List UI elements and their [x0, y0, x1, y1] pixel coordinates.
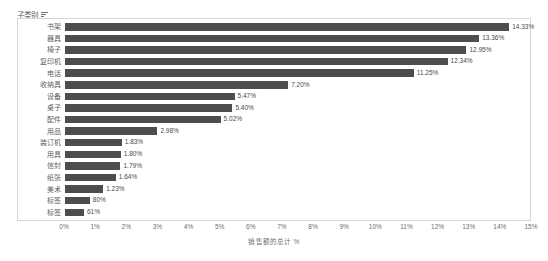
- bar-row: 桌子5.40%: [18, 102, 530, 114]
- bar-row-label[interactable]: 用具: [18, 151, 65, 158]
- x-axis: 0%1%2%3%4%5%6%7%8%9%10%11%12%13%14%15%: [17, 221, 531, 235]
- bar[interactable]: [65, 104, 232, 112]
- bar-row: 信封1.79%: [18, 160, 530, 172]
- bar-track: 5.02%: [65, 114, 530, 126]
- bar-row-label[interactable]: 信封: [18, 162, 65, 169]
- bar[interactable]: [65, 81, 288, 89]
- x-axis-tick: 13%: [462, 223, 475, 230]
- x-axis-tick: 2%: [122, 223, 131, 230]
- x-axis-tick: 10%: [369, 223, 382, 230]
- x-axis-tick: 7%: [277, 223, 286, 230]
- bar-row-label[interactable]: 电话: [18, 70, 65, 77]
- bar-value-label: 80%: [93, 197, 106, 204]
- bar[interactable]: [65, 116, 221, 124]
- bar-track: 1.80%: [65, 149, 530, 161]
- plot-area: 书架14.33%器具13.36%椅子12.95%复印机12.34%电话11.25…: [17, 18, 531, 221]
- bar[interactable]: [65, 197, 90, 205]
- bar-track: 5.40%: [65, 102, 530, 114]
- bar-row: 设备5.47%: [18, 91, 530, 103]
- bar-row: 装订机1.83%: [18, 137, 530, 149]
- bar[interactable]: [65, 151, 121, 159]
- bar-row: 电话11.25%: [18, 67, 530, 79]
- bar-value-label: 13.36%: [482, 35, 504, 42]
- bar[interactable]: [65, 69, 414, 77]
- bar-value-label: 11.25%: [417, 70, 439, 77]
- bar-row: 复印机12.34%: [18, 56, 530, 68]
- bar-value-label: 5.02%: [224, 116, 242, 123]
- bar-track: 14.33%: [65, 21, 530, 33]
- bar-row-label[interactable]: 收纳具: [18, 81, 65, 88]
- bar-row-label[interactable]: 纸张: [18, 174, 65, 181]
- bar[interactable]: [65, 58, 448, 66]
- bar[interactable]: [65, 23, 509, 31]
- bar-row-label[interactable]: 标签: [18, 197, 65, 204]
- bar[interactable]: [65, 209, 84, 217]
- bar-row: 书架14.33%: [18, 21, 530, 33]
- bar-row-label[interactable]: 装订机: [18, 139, 65, 146]
- bar-row: 标签61%: [18, 207, 530, 219]
- bar[interactable]: [65, 185, 103, 193]
- bar-track: 13.36%: [65, 33, 530, 45]
- bar-track: 61%: [65, 207, 530, 219]
- bar-row: 标签80%: [18, 195, 530, 207]
- x-axis-tick: 6%: [246, 223, 255, 230]
- bar-value-label: 14.33%: [512, 24, 534, 31]
- bar-track: 7.20%: [65, 79, 530, 91]
- bar-row-label[interactable]: 桌子: [18, 104, 65, 111]
- bar-row: 配件5.02%: [18, 114, 530, 126]
- bar[interactable]: [65, 46, 466, 54]
- bar-row: 用品2.98%: [18, 125, 530, 137]
- x-axis-tick: 3%: [153, 223, 162, 230]
- x-axis-tick: 0%: [59, 223, 68, 230]
- x-axis-tick: 15%: [524, 223, 537, 230]
- bar[interactable]: [65, 35, 479, 43]
- bar-row: 椅子12.95%: [18, 44, 530, 56]
- bar[interactable]: [65, 139, 122, 147]
- sort-descending-icon[interactable]: [41, 11, 48, 18]
- bar-track: 12.95%: [65, 44, 530, 56]
- bar[interactable]: [65, 127, 157, 135]
- bar-row-label[interactable]: 器具: [18, 35, 65, 42]
- bar-value-label: 12.34%: [451, 58, 473, 65]
- bar-rows: 书架14.33%器具13.36%椅子12.95%复印机12.34%电话11.25…: [18, 19, 530, 220]
- bar[interactable]: [65, 162, 120, 170]
- bar-row: 器具13.36%: [18, 33, 530, 45]
- x-axis-tick: 8%: [308, 223, 317, 230]
- bar-row-label[interactable]: 椅子: [18, 46, 65, 53]
- bar-value-label: 12.95%: [469, 47, 491, 54]
- x-axis-title: 销售额的总计 %: [17, 236, 531, 246]
- bar-value-label: 1.83%: [125, 139, 143, 146]
- x-axis-tick: 4%: [184, 223, 193, 230]
- bar-value-label: 2.98%: [160, 128, 178, 135]
- bar[interactable]: [65, 93, 235, 101]
- bar-track: 1.83%: [65, 137, 530, 149]
- x-axis-ticks: 0%1%2%3%4%5%6%7%8%9%10%11%12%13%14%15%: [64, 221, 531, 235]
- bar-row: 用具1.80%: [18, 149, 530, 161]
- bar-row: 纸张1.64%: [18, 172, 530, 184]
- x-axis-tick: 5%: [215, 223, 224, 230]
- x-axis-tick: 11%: [400, 223, 413, 230]
- bar-track: 1.64%: [65, 172, 530, 184]
- bar-track: 1.23%: [65, 183, 530, 195]
- bar-row-label[interactable]: 书架: [18, 23, 65, 30]
- bar-row: 收纳具7.20%: [18, 79, 530, 91]
- bar-value-label: 5.47%: [238, 93, 256, 100]
- x-axis-tick: 1%: [90, 223, 99, 230]
- bar-value-label: 7.20%: [291, 82, 309, 89]
- bar-row-label[interactable]: 标签: [18, 209, 65, 216]
- bar-track: 5.47%: [65, 91, 530, 103]
- bar-value-label: 1.64%: [119, 174, 137, 181]
- bar-row-label[interactable]: 美术: [18, 186, 65, 193]
- bar-track: 2.98%: [65, 125, 530, 137]
- x-axis-tick: 12%: [431, 223, 444, 230]
- bar-value-label: 1.23%: [106, 186, 124, 193]
- bar[interactable]: [65, 174, 116, 182]
- bar-row-label[interactable]: 复印机: [18, 58, 65, 65]
- bar-row-label[interactable]: 用品: [18, 128, 65, 135]
- x-axis-tick: 9%: [339, 223, 348, 230]
- bar-track: 80%: [65, 195, 530, 207]
- bar-value-label: 1.79%: [123, 163, 141, 170]
- bar-row-label[interactable]: 设备: [18, 93, 65, 100]
- bar-row-label[interactable]: 配件: [18, 116, 65, 123]
- bar-track: 11.25%: [65, 67, 530, 79]
